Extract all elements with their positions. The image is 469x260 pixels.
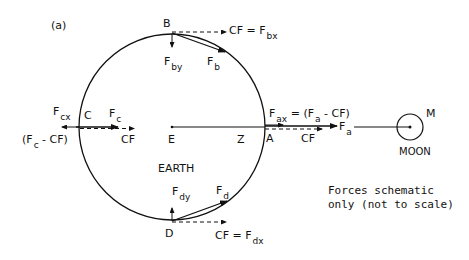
fby-sub: by: [171, 62, 182, 72]
cf-b-sub: bx: [267, 31, 278, 41]
earth-moon-force-diagram: (a) B CF = Fbx Fby Fb Fcx C Fc (Fc - CF)…: [0, 0, 469, 260]
cf-d-text: CF = F: [215, 229, 252, 242]
fd-arrow: [172, 201, 227, 221]
fax-eq-b: - CF): [321, 107, 350, 120]
fby-label: Fby: [164, 56, 182, 67]
point-a-label: A: [266, 133, 274, 144]
moon-center-dot: [409, 126, 412, 129]
fcx-expr-sub: c: [34, 140, 39, 150]
cf-c-label: CF: [121, 134, 135, 145]
fc-label: Fc: [109, 108, 121, 119]
moon-point-label: M: [426, 108, 436, 119]
fc-sub: c: [116, 114, 121, 124]
earth-center-label: E: [168, 134, 175, 145]
fdy-sub: dy: [179, 192, 190, 202]
fb-text: F: [207, 55, 213, 68]
fcx-expression-label: (Fc - CF): [22, 134, 68, 145]
cf-b-label: CF = Fbx: [229, 25, 278, 36]
panel-label: (a): [51, 20, 66, 31]
fb-label: Fb: [207, 56, 220, 67]
point-c-label: C: [84, 110, 92, 121]
fd-text: F: [216, 184, 222, 197]
fc-text: F: [109, 107, 115, 120]
fd-sub: d: [223, 191, 229, 201]
point-z-label: Z: [237, 134, 245, 145]
fa-sub: a: [346, 127, 352, 137]
fax-sub: ax: [276, 114, 287, 124]
fcx-expr-b: - CF): [39, 133, 68, 146]
point-b-label: B: [163, 18, 171, 29]
fb-arrow: [172, 33, 225, 52]
fcx-text: F: [53, 105, 59, 118]
fcx-sub: cx: [60, 112, 70, 122]
point-d-label: D: [165, 228, 173, 239]
fax-label: Fax = (Fa - CF): [269, 108, 350, 119]
fd-label: Fd: [216, 185, 229, 196]
fax-eq-a: = (F: [287, 107, 314, 120]
cf-d-label: CF = Fdx: [215, 230, 264, 241]
fa-text: F: [339, 120, 345, 133]
earth-label: EARTH: [158, 163, 194, 174]
moon-label: MOON: [399, 147, 431, 157]
fa-label: Fa: [339, 121, 352, 132]
fb-sub: b: [214, 62, 220, 72]
diagram-graphics: [0, 0, 469, 260]
fax-eq-sub: a: [315, 114, 321, 124]
cf-a-label: CF: [301, 133, 315, 144]
fcx-expr-a: (F: [22, 133, 33, 146]
fdy-text: F: [172, 185, 178, 198]
fby-text: F: [164, 55, 170, 68]
fdy-label: Fdy: [172, 186, 190, 197]
scale-note-line2: only (not to scale): [328, 198, 454, 212]
fcx-label: Fcx: [53, 106, 71, 117]
fax-text: F: [269, 107, 275, 120]
cf-b-text: CF = F: [229, 24, 266, 37]
cf-d-sub: dx: [253, 236, 264, 246]
scale-note-line1: Forces schematic: [328, 184, 454, 198]
scale-note: Forces schematic only (not to scale): [328, 184, 454, 212]
